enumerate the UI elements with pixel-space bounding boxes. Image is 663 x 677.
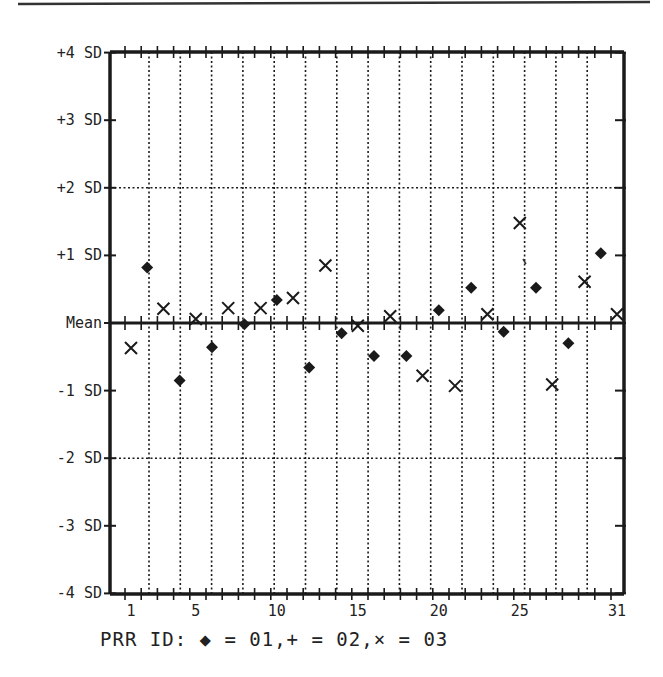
diamond-marker-prr01 <box>562 337 574 349</box>
x-marker-prr03 <box>287 292 299 304</box>
diamond-marker-prr01 <box>238 318 250 330</box>
diamond-marker-prr01 <box>206 341 218 353</box>
diamond-marker-prr01 <box>141 262 153 274</box>
x-marker-prr03 <box>222 302 234 314</box>
x-marker-prr03 <box>611 308 623 320</box>
x-marker-prr03 <box>319 260 331 272</box>
x-tick-label: 15 <box>349 602 367 620</box>
diamond-marker-prr01 <box>174 374 186 386</box>
x-marker-prr03 <box>546 379 558 391</box>
x-marker-prr03 <box>481 308 493 320</box>
x-tick-label: 1 <box>126 602 135 620</box>
diamond-marker-prr01 <box>400 350 412 362</box>
diamond-marker-prr01 <box>595 247 607 259</box>
x-tick-label: 25 <box>511 602 529 620</box>
x-marker-prr03 <box>417 370 429 382</box>
x-marker-prr03 <box>352 320 364 332</box>
x-marker-prr03 <box>579 276 591 288</box>
data-points <box>125 217 623 392</box>
y-axis-labels: +4 SD+3 SD+2 SD+1 SDMean-1 SD-2 SD-3 SD-… <box>57 44 102 603</box>
legend: PRR ID: ◆ = 01,+ = 02,× = 03 <box>100 628 448 650</box>
top-rule <box>18 2 650 4</box>
y-tick-label: -3 SD <box>57 517 102 535</box>
x-marker-prr03 <box>384 310 396 322</box>
x-marker-prr03 <box>125 342 137 354</box>
x-marker-prr03 <box>514 217 526 229</box>
y-tick-label: +4 SD <box>57 44 102 62</box>
y-tick-label: +2 SD <box>57 179 102 197</box>
diamond-marker-prr01 <box>465 282 477 294</box>
x-marker-prr03 <box>157 303 169 315</box>
diamond-marker-prr01 <box>433 304 445 316</box>
y-tick-label: +3 SD <box>57 111 102 129</box>
qc-levey-jennings-chart: +4 SD+3 SD+2 SD+1 SDMean-1 SD-2 SD-3 SD-… <box>0 0 663 677</box>
x-tick-label: 10 <box>268 602 286 620</box>
diamond-marker-prr01 <box>271 294 283 306</box>
diamond-marker-prr01 <box>530 282 542 294</box>
x-tick-label: 20 <box>430 602 448 620</box>
y-tick-label: -1 SD <box>57 382 102 400</box>
x-marker-prr03 <box>449 380 461 392</box>
diamond-marker-prr01 <box>368 350 380 362</box>
x-tick-label: 5 <box>191 602 200 620</box>
diamond-marker-prr01 <box>498 326 510 338</box>
y-tick-label: -4 SD <box>57 584 102 602</box>
x-marker-prr03 <box>255 302 267 314</box>
y-tick-label: Mean <box>66 314 102 332</box>
y-tick-label: -2 SD <box>57 449 102 467</box>
x-axis-labels: 151015202531 <box>126 602 626 620</box>
x-tick-label: 31 <box>608 602 626 620</box>
y-tick-label: +1 SD <box>57 246 102 264</box>
